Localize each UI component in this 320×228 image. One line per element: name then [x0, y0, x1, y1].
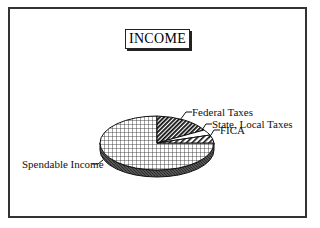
pie-chart	[0, 0, 320, 228]
label-spendable-income: Spendable Income	[22, 158, 104, 170]
label-fica: FICA	[220, 124, 245, 136]
label-federal-taxes: Federal Taxes	[192, 106, 253, 118]
